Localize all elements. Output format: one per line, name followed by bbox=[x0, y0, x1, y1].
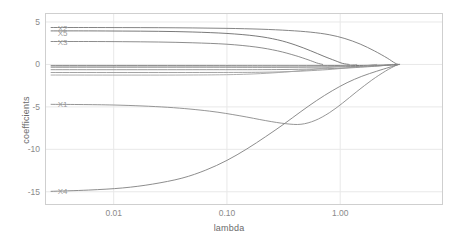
curve-label-X4: X4 bbox=[58, 187, 68, 196]
curve-label-X5: X5 bbox=[58, 28, 68, 37]
y-tick-label: -15 bbox=[18, 187, 40, 197]
curve-label-X1: X1 bbox=[58, 100, 68, 109]
x-axis-label: lambda bbox=[0, 223, 458, 233]
x-tick-label: 0.01 bbox=[105, 208, 122, 218]
curve-label-X3: X3 bbox=[58, 37, 68, 46]
y-tick-label: 0 bbox=[18, 59, 40, 69]
plot-background bbox=[0, 0, 458, 239]
x-tick-label: 1.00 bbox=[332, 208, 349, 218]
x-tick-label: 0.10 bbox=[219, 208, 236, 218]
y-tick-label: 5 bbox=[18, 17, 40, 27]
y-tick-label: -10 bbox=[18, 144, 40, 154]
y-tick-label: -5 bbox=[18, 102, 40, 112]
chart-container: coefficients lambda 50-5-10-15 0.010.101… bbox=[0, 0, 458, 239]
coefficient-path-plot bbox=[0, 0, 458, 239]
